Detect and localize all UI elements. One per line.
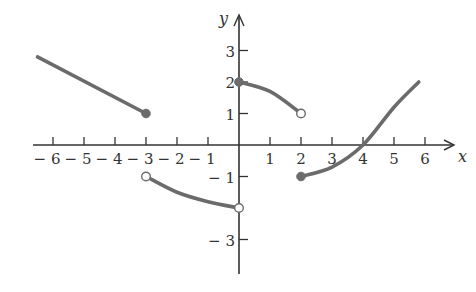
closed-dot-icon [235, 78, 244, 87]
x-tick-label: 4 [358, 150, 368, 168]
x-tick-label: 5 [389, 150, 399, 168]
function-graph: − 6− 5− 4− 3− 2− 1123456321− 1− 3 x y [0, 0, 476, 292]
x-tick-label: − 1 [189, 150, 216, 168]
x-tick-label: − 3 [127, 150, 154, 168]
closed-dot-icon [142, 109, 151, 118]
y-tick-label: 2 [225, 74, 235, 92]
open-dot-icon [235, 204, 244, 213]
x-tick-label: 1 [265, 150, 275, 168]
x-tick-label: − 2 [158, 150, 185, 168]
open-dot-icon [142, 172, 151, 181]
y-tick-label: 3 [225, 43, 235, 61]
x-tick-label: 2 [296, 150, 306, 168]
y-tick-label: 1 [225, 106, 235, 124]
x-tick-label: 6 [420, 150, 430, 168]
segment-1 [38, 57, 147, 114]
y-tick-label: − 3 [208, 232, 235, 250]
axes [33, 15, 454, 274]
open-dot-icon [297, 109, 306, 118]
x-tick-label: − 5 [65, 150, 92, 168]
x-tick-label: − 4 [96, 150, 123, 168]
y-tick-label: − 1 [208, 169, 235, 187]
x-tick-label: − 6 [34, 150, 61, 168]
y-axis-label: y [218, 9, 229, 28]
x-axis-label: x [458, 147, 467, 166]
closed-dot-icon [297, 172, 306, 181]
segment-3 [239, 82, 301, 114]
tick-labels: − 6− 5− 4− 3− 2− 1123456321− 1− 3 [34, 43, 430, 250]
